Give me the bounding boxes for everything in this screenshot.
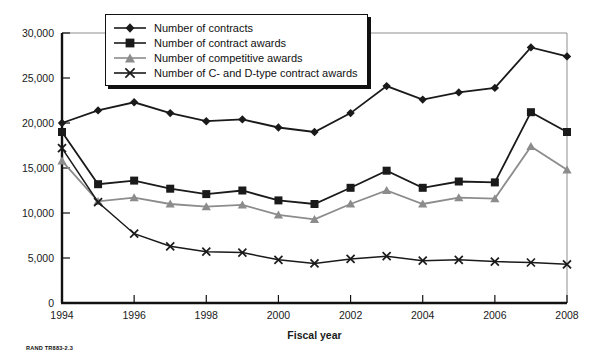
data-point [347, 184, 355, 192]
data-point [383, 167, 391, 175]
triangle-marker-icon [113, 51, 147, 65]
y-axis-tick-label: 20,000 [22, 117, 54, 129]
legend-item-label: Number of competitive awards [154, 51, 303, 65]
legend-item-label: Number of contracts [154, 21, 253, 35]
data-point [58, 119, 66, 127]
data-point [238, 115, 246, 123]
data-point [526, 142, 535, 150]
x-axis-title: Fiscal year [287, 329, 341, 341]
chart-legend: Number of contracts Number of contract a… [105, 14, 368, 86]
legend-item: Number of competitive awards [113, 50, 358, 65]
data-point [419, 95, 427, 103]
data-point [130, 230, 138, 238]
data-point [57, 156, 66, 164]
x-axis-tick-label: 1994 [50, 309, 74, 321]
diamond-marker-icon [113, 21, 147, 35]
data-point [419, 184, 427, 192]
y-axis-tick-label: 15,000 [22, 162, 54, 174]
data-point [166, 185, 174, 193]
data-point [130, 177, 138, 185]
data-point [455, 88, 463, 96]
data-point [491, 178, 499, 186]
x-axis-tick-label: 2006 [483, 309, 507, 321]
data-point [563, 128, 571, 136]
legend-item: Number of C- and D-type contract awards [113, 65, 358, 80]
data-point [202, 117, 210, 125]
y-axis-tick-label: 25,000 [22, 72, 54, 84]
x-axis-tick-label: 2002 [339, 309, 363, 321]
data-point [310, 128, 318, 136]
legend-item-label: Number of C- and D-type contract awards [154, 66, 358, 80]
x-axis-tick-label: 2004 [411, 309, 435, 321]
y-axis-tick-label: 5,000 [28, 252, 54, 264]
square-marker-icon [113, 36, 147, 50]
data-point [94, 180, 102, 188]
x-axis-tick-label: 1996 [122, 309, 146, 321]
data-point [274, 196, 282, 204]
data-point [130, 98, 138, 106]
x-axis-tick-label: 2000 [267, 309, 291, 321]
data-point [311, 200, 319, 208]
data-point [455, 178, 463, 186]
data-point [274, 123, 282, 131]
data-point [58, 128, 66, 136]
x-marker-icon [113, 66, 147, 80]
x-axis-tick-label: 1998 [195, 309, 219, 321]
legend-item: Number of contract awards [113, 35, 358, 50]
data-point [382, 186, 391, 194]
legend-item-label: Number of contract awards [154, 36, 286, 50]
data-point [166, 109, 174, 117]
data-point [238, 187, 246, 195]
series-square [58, 108, 571, 208]
data-point [563, 52, 571, 60]
data-point [562, 165, 571, 173]
y-axis-tick-label: 10,000 [22, 207, 54, 219]
data-point [94, 106, 102, 114]
y-axis-tick-label: 30,000 [22, 27, 54, 39]
x-axis-tick-label: 2008 [555, 309, 579, 321]
y-axis-tick-label: 0 [48, 297, 54, 309]
data-point [527, 108, 535, 116]
source-note: RAND TR883-2.3 [26, 345, 73, 351]
legend-item: Number of contracts [113, 20, 358, 35]
data-point [202, 190, 210, 198]
chart-figure: 05,00010,00015,00020,00025,00030,0001994… [0, 0, 603, 364]
series-line [62, 112, 567, 204]
